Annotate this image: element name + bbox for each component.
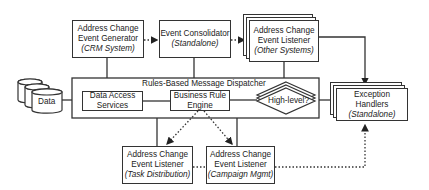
node-title-line2: Event Generator [78, 34, 138, 44]
node-title-line1: Exception Handlers [337, 90, 407, 110]
node-subtitle: (Campaign Mgmt) [208, 170, 274, 180]
node-title-line1: Business Rule [174, 91, 226, 101]
node-title-line2: Event Listener [258, 36, 310, 46]
node-subtitle: (Task Distribution) [125, 170, 191, 180]
node-title-line2: Engine [187, 101, 213, 111]
node-title-line1: Address Change [210, 150, 271, 160]
data-access-services-node: Data Access Services [82, 91, 143, 111]
event-listener-task-node: Address Change Event Listener (Task Dist… [122, 146, 193, 184]
node-title-line2: Services [97, 101, 128, 111]
node-title-line1: Address Change [127, 150, 188, 160]
event-listener-campaign-node: Address Change Event Listener (Campaign … [206, 146, 275, 184]
node-title-line1: Event Consolidator [160, 29, 229, 39]
exception-handlers-node: Exception Handlers (Standalone) [336, 88, 408, 121]
dispatcher-label: Rules-Based Message Dispatcher [142, 79, 266, 89]
node-title-line1: Data Access [90, 91, 136, 101]
node-subtitle: (Standalone) [172, 39, 219, 49]
decision-label: High-level? [268, 96, 309, 106]
data-store-label: Data [38, 97, 55, 107]
event-listener-other-node: Address Change Event Listener (Other Sys… [249, 20, 319, 62]
node-title-line2: Event Listener [131, 160, 183, 170]
node-title-line1: Address Change [78, 24, 139, 34]
node-subtitle: (Other Systems) [254, 46, 314, 56]
node-title-line2: Event Listener [214, 160, 266, 170]
node-subtitle: (CRM System) [81, 44, 135, 54]
node-subtitle: (Standalone) [349, 110, 396, 120]
business-rule-engine-node: Business Rule Engine [170, 90, 230, 111]
event-generator-node: Address Change Event Generator (CRM Syst… [72, 20, 144, 58]
event-consolidator-node: Event Consolidator (Standalone) [159, 20, 231, 58]
node-title-line1: Address Change [254, 26, 315, 36]
